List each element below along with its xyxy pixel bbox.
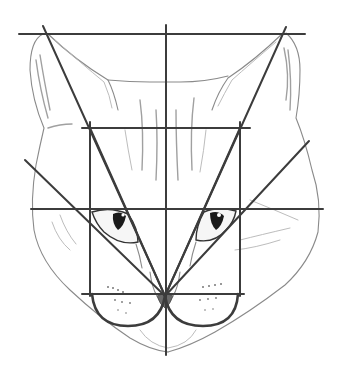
right-ear-fur — [284, 48, 291, 110]
left-eye — [92, 209, 142, 268]
right-cheek-fur — [235, 200, 298, 250]
right-ear-inner-2 — [218, 42, 276, 106]
head-top — [108, 76, 228, 82]
right-cheek-ray — [165, 141, 309, 296]
left-eye-tear — [136, 244, 142, 268]
forehead-stripe-3 — [176, 110, 178, 180]
whisker-dots-left — [107, 286, 131, 314]
left-ear-inner-2 — [55, 40, 112, 108]
left-ear-inner — [48, 34, 118, 110]
right-eye-highlight — [217, 213, 221, 217]
whisker-dots-right — [199, 283, 222, 311]
forehead-stripe-5 — [125, 130, 132, 170]
right-ear-outline — [168, 33, 319, 352]
left-ear-fur — [36, 55, 50, 118]
forehead-stripe-4 — [191, 98, 194, 170]
left-eye-highlight — [121, 213, 124, 216]
forehead-stripe-2 — [156, 110, 157, 180]
forehead-stripe-1 — [140, 100, 143, 170]
left-cheek-fur — [52, 215, 76, 250]
left-cheek-ray — [25, 160, 165, 296]
cat-sketch — [30, 33, 319, 352]
construction-guides — [19, 25, 323, 355]
right-eye — [190, 209, 236, 266]
cat-face-drawing — [0, 0, 344, 372]
forehead-stripe-6 — [200, 130, 206, 172]
left-muzzle-arc — [92, 294, 165, 326]
right-muzzle-arc — [165, 294, 238, 326]
left-tuft — [48, 124, 72, 128]
